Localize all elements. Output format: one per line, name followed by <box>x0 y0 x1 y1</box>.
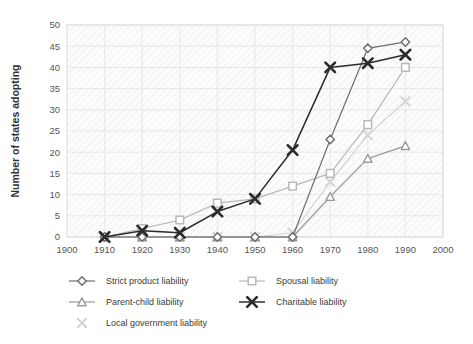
legend-label: Charitable liability <box>276 297 347 307</box>
y-tick-label-3: 15 <box>49 168 60 179</box>
x-tick-label-9: 1990 <box>395 244 416 255</box>
data-point-6 <box>326 170 334 178</box>
x-tick-label-7: 1970 <box>320 244 341 255</box>
legend-marker <box>78 277 86 285</box>
y-tick-label-4: 20 <box>49 147 60 158</box>
x-tick-label-5: 1950 <box>244 244 265 255</box>
y-axis-tick-labels: 05101520253035404550 <box>49 19 60 242</box>
data-point-7 <box>364 121 372 129</box>
x-tick-label-2: 1920 <box>132 244 153 255</box>
chart-container: 05101520253035404550 1900191019201930194… <box>0 0 473 344</box>
y-axis-title: Number of states adopting <box>9 64 21 197</box>
legend-label: Strict product liability <box>106 276 189 286</box>
legend-item-parent-child-liability[interactable]: Parent-child liability <box>69 297 184 307</box>
legend-label: Local government liability <box>106 318 208 328</box>
x-axis-tick-labels: 1900191019201930194019501960197019801990… <box>56 244 453 255</box>
y-tick-label-0: 0 <box>55 231 60 242</box>
legend-item-charitable-liability[interactable]: Charitable liability <box>239 297 347 307</box>
y-tick-label-6: 30 <box>49 104 60 115</box>
chart-legend: Strict product liabilitySpousal liabilit… <box>69 276 347 328</box>
legend-item-spousal-liability[interactable]: Spousal liability <box>239 276 339 286</box>
legend-marker <box>248 277 256 285</box>
x-tick-label-3: 1930 <box>169 244 190 255</box>
legend-marker <box>78 319 86 327</box>
data-point-8 <box>402 64 410 72</box>
y-tick-label-10: 50 <box>49 19 60 30</box>
data-point-2 <box>176 216 184 224</box>
legend-item-strict-product-liability[interactable]: Strict product liability <box>69 276 189 286</box>
x-tick-label-1: 1910 <box>94 244 115 255</box>
x-tick-label-4: 1940 <box>207 244 228 255</box>
x-tick-label-6: 1960 <box>282 244 303 255</box>
x-tick-label-8: 1980 <box>357 244 378 255</box>
legend-label: Spousal liability <box>276 276 339 286</box>
y-tick-label-1: 5 <box>55 210 60 221</box>
x-tick-label-0: 1900 <box>56 244 77 255</box>
data-point-3 <box>214 199 222 207</box>
y-tick-label-9: 45 <box>49 41 60 52</box>
y-tick-label-2: 10 <box>49 189 60 200</box>
y-tick-label-5: 25 <box>49 125 60 136</box>
y-tick-label-7: 35 <box>49 83 60 94</box>
x-tick-label-10: 2000 <box>432 244 453 255</box>
legend-label: Parent-child liability <box>106 297 184 307</box>
y-tick-label-8: 40 <box>49 62 60 73</box>
data-point-5 <box>289 182 297 190</box>
legend-item-local-government-liability[interactable]: Local government liability <box>78 318 208 328</box>
line-chart: 05101520253035404550 1900191019201930194… <box>0 0 473 344</box>
